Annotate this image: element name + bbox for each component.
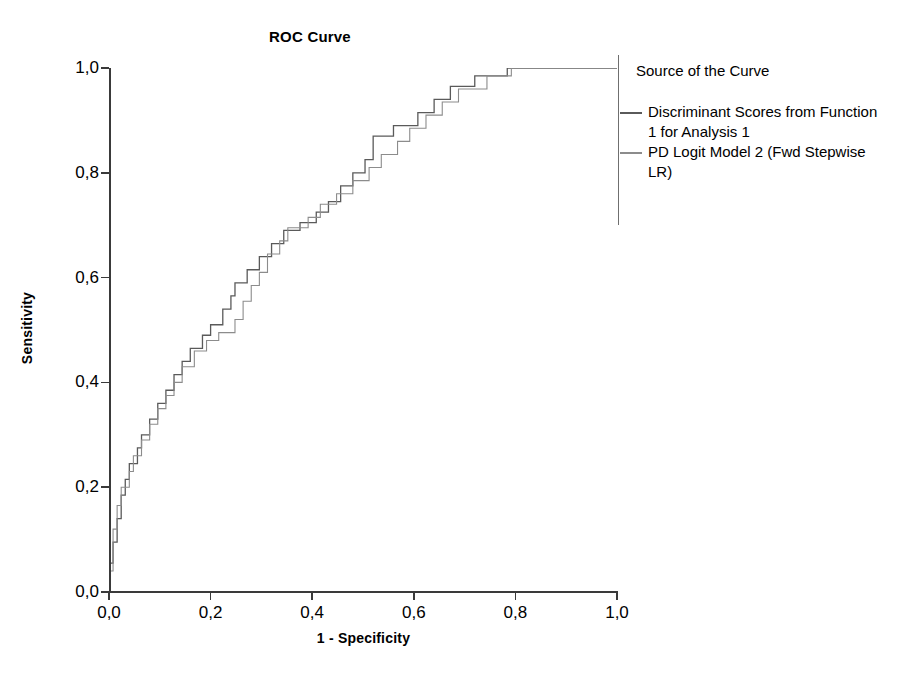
roc-curve-series-2 xyxy=(109,68,617,592)
y-tick-1 xyxy=(101,486,109,488)
y-tick-label-3: 0,6 xyxy=(53,269,99,286)
y-tick-label-0: 0,0 xyxy=(53,583,99,600)
x-tick-2 xyxy=(311,592,313,600)
y-tick-label-5: 1,0 xyxy=(53,59,99,76)
x-tick-4 xyxy=(515,592,517,600)
y-tick-2 xyxy=(101,382,109,384)
roc-curves-svg xyxy=(109,68,617,592)
x-tick-label-1: 0,2 xyxy=(181,604,241,621)
y-tick-label-4: 0,8 xyxy=(53,164,99,181)
plot-area xyxy=(109,68,617,592)
page-title: ROC Curve xyxy=(0,28,620,45)
x-axis-line xyxy=(109,591,618,593)
y-tick-label-2: 0,4 xyxy=(53,373,99,390)
x-tick-5 xyxy=(616,592,618,600)
legend-label-2: PD Logit Model 2 (Fwd Stepwise LR) xyxy=(648,142,888,182)
y-axis-title: Sensitivity xyxy=(19,268,35,388)
legend-label-1: Discriminant Scores from Function 1 for … xyxy=(648,102,888,142)
x-tick-1 xyxy=(210,592,212,600)
y-tick-label-1: 0,2 xyxy=(53,478,99,495)
x-tick-3 xyxy=(413,592,415,600)
x-tick-label-2: 0,4 xyxy=(282,604,342,621)
legend-swatch-2 xyxy=(620,152,642,154)
y-tick-4 xyxy=(101,172,109,174)
x-tick-label-5: 1,0 xyxy=(587,604,647,621)
roc-curve-series-1 xyxy=(109,68,617,592)
x-tick-label-0: 0,0 xyxy=(79,604,139,621)
x-axis-title: 1 - Specificity xyxy=(109,630,618,646)
x-tick-label-4: 0,8 xyxy=(485,604,545,621)
y-tick-5 xyxy=(101,67,109,69)
y-tick-3 xyxy=(101,277,109,279)
x-tick-0 xyxy=(108,592,110,600)
legend-divider xyxy=(618,55,619,225)
legend-swatch-1 xyxy=(620,112,642,114)
legend-title: Source of the Curve xyxy=(636,62,769,79)
y-axis-line xyxy=(109,68,111,593)
roc-chart-figure: ROC Curve 0,00,20,40,60,81,0 0,00,20,40,… xyxy=(0,0,898,686)
x-tick-label-3: 0,6 xyxy=(384,604,444,621)
